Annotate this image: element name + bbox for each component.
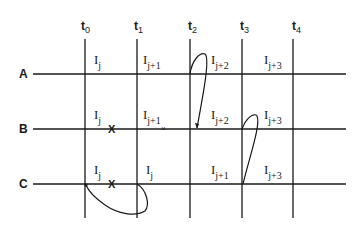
cell-b-3: Ij+3 — [264, 108, 282, 126]
cross-mark-b-1: × — [161, 125, 166, 133]
cell-c-3: Ij+3 — [264, 163, 282, 181]
interval-diagram: t0 t1 t2 t3 t4 A B C Ij Ij+1 Ij+2 Ij+3 I… — [0, 0, 362, 232]
time-label-t0: t0 — [81, 20, 90, 35]
loop-arrow-c-t1-to-t0 — [86, 184, 147, 214]
loop-arrow-a-to-b — [190, 54, 207, 128]
cross-mark-b-0: X — [108, 124, 115, 135]
grid-lines — [0, 0, 362, 232]
time-label-t2: t2 — [188, 20, 197, 35]
cell-c-2: Ij+1 — [211, 163, 229, 181]
cell-b-1: Ij+1 — [143, 108, 161, 126]
cell-a-0: Ij — [94, 53, 101, 71]
time-label-t1: t1 — [134, 20, 143, 35]
cell-b-2: Ij+2 — [211, 108, 229, 126]
cross-mark-c-0: X — [108, 179, 115, 190]
time-label-t3: t3 — [240, 20, 249, 35]
cell-c-1: Ij — [146, 163, 153, 181]
time-label-t4: t4 — [292, 20, 301, 35]
arrowhead-c-t0 — [84, 183, 87, 186]
loop-arrow-b-to-c — [242, 115, 258, 184]
row-label-a: A — [19, 68, 28, 80]
arrowhead-b-t2 — [195, 123, 199, 129]
cell-c-0: Ij — [94, 163, 101, 181]
cell-b-0: Ij — [94, 108, 101, 126]
row-label-c: C — [19, 178, 28, 190]
cell-a-1: Ij+1 — [143, 53, 161, 71]
cell-a-2: Ij+2 — [211, 53, 229, 71]
cell-a-3: Ij+3 — [264, 53, 282, 71]
row-label-b: B — [19, 123, 28, 135]
